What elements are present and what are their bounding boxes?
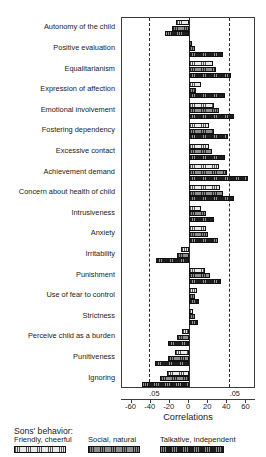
category-label: Equalitarianism: [64, 65, 115, 73]
bar: [189, 134, 228, 139]
x-axis-tick-label: -20: [159, 402, 179, 412]
bar: [189, 52, 223, 57]
bar: [189, 164, 219, 169]
significance-label: .05: [230, 389, 240, 398]
bar-row: [122, 307, 254, 328]
legend-swatch: [88, 446, 140, 453]
category-label: Positive evaluation: [53, 44, 115, 52]
bar: [189, 61, 213, 66]
bar-row: [122, 245, 254, 266]
category-label: Concern about health of child: [19, 188, 115, 196]
bar: [189, 299, 199, 304]
legend: Sons' behavior: Friendly, cheerfulSocial…: [0, 426, 266, 457]
bar: [189, 170, 227, 175]
bar-row: [122, 18, 254, 39]
bar: [175, 350, 189, 355]
category-axis-labels: Autonomy of the childPositive evaluation…: [0, 17, 118, 388]
legend-item: Social, natural: [88, 435, 150, 453]
bar: [189, 149, 212, 154]
x-axis-tick-label: -60: [121, 402, 141, 412]
category-label: Perceive child as a burden: [28, 332, 115, 340]
bar: [189, 226, 206, 231]
x-axis-tick-label: 0: [178, 402, 198, 412]
bar-row: [122, 224, 254, 245]
bar: [155, 361, 189, 366]
category-label: Expression of affection: [40, 85, 115, 93]
bar: [189, 73, 231, 78]
bar: [189, 320, 198, 325]
bar: [189, 123, 209, 128]
bar: [189, 211, 206, 216]
bar: [189, 41, 192, 46]
bar: [160, 376, 189, 381]
bar: [181, 247, 189, 252]
significance-label: .05: [149, 389, 159, 398]
bar: [177, 253, 189, 258]
bar: [156, 258, 190, 263]
x-axis-tick-label: 20: [197, 402, 217, 412]
legend-item: Friendly, cheerful: [14, 435, 76, 453]
bar-row: [122, 204, 254, 225]
bar: [189, 191, 223, 196]
bar-row: [122, 121, 254, 142]
bar: [189, 217, 214, 222]
bar-row: [122, 183, 254, 204]
bar: [189, 144, 209, 149]
bar: [177, 335, 189, 340]
bar: [189, 279, 221, 284]
bar: [168, 356, 189, 361]
bar: [189, 314, 195, 319]
bar: [189, 268, 205, 273]
legend-item-label: Talkative, independent: [160, 435, 234, 444]
bar: [189, 232, 208, 237]
bar: [189, 185, 220, 190]
category-label: Use of fear to control: [46, 291, 115, 299]
bar-row: [122, 286, 254, 307]
category-label: Punishment: [76, 271, 115, 279]
category-label: Achievement demand: [44, 168, 116, 176]
category-label: Ignoring: [88, 374, 115, 382]
bar-row: [122, 80, 254, 101]
bar: [189, 46, 195, 51]
legend-swatch: [160, 446, 224, 453]
bar: [167, 371, 189, 376]
bar: [189, 238, 218, 243]
bar: [189, 103, 214, 108]
x-axis-title: Correlations: [121, 412, 255, 422]
bar-row: [122, 142, 254, 163]
bar-row: [122, 327, 254, 348]
bar-row: [122, 39, 254, 60]
bar: [189, 155, 225, 160]
bar-row: [122, 59, 254, 80]
bar: [189, 309, 193, 314]
category-label: Emotional involvement: [41, 106, 115, 114]
legend-item: Talkative, independent: [160, 435, 234, 453]
bar: [165, 31, 189, 36]
x-axis-tick-label: 40: [216, 402, 236, 412]
bar-row: [122, 100, 254, 121]
bar-row: [122, 368, 254, 389]
bar: [189, 273, 210, 278]
x-axis-tick-label: 60: [235, 402, 255, 412]
bar: [189, 294, 195, 299]
legend-item-label: Social, natural: [88, 435, 150, 444]
bar: [189, 176, 248, 181]
bar: [189, 206, 201, 211]
x-axis-tick-label: -40: [140, 402, 160, 412]
bar: [189, 82, 201, 87]
correlation-bar-chart: Autonomy of the childPositive evaluation…: [0, 0, 266, 457]
significance-labels: .05.05: [121, 389, 255, 399]
bar: [189, 196, 234, 201]
bar: [172, 26, 189, 31]
category-label: Intrusiveness: [71, 209, 115, 217]
bar: [182, 329, 189, 334]
plot-area: [121, 17, 255, 388]
bar: [189, 93, 225, 98]
category-label: Autonomy of the child: [44, 23, 115, 31]
bar: [189, 88, 196, 93]
bar: [189, 129, 214, 134]
bar-row: [122, 265, 254, 286]
bar: [189, 114, 234, 119]
category-label: Irritability: [85, 250, 115, 258]
bar-row: [122, 348, 254, 369]
